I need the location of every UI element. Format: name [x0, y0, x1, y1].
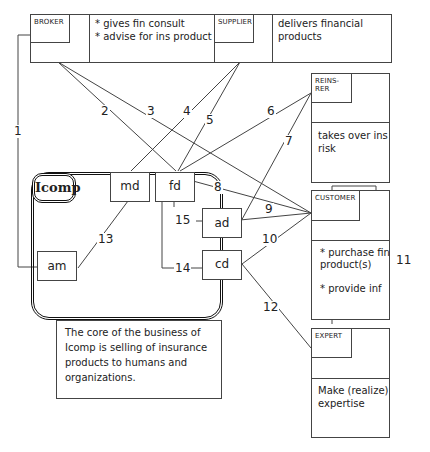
connection-label-2: 2	[100, 105, 110, 118]
unit-md[interactable]: md	[110, 172, 150, 202]
supplier-tag: SUPPLIER	[214, 14, 254, 43]
connection-label-12: 12	[262, 301, 279, 314]
connection-label-11: 11	[395, 254, 412, 267]
reinsurer-description: takes over ins risk	[318, 129, 388, 155]
organization-title: Icomp	[32, 173, 76, 203]
connection-label-4: 4	[182, 105, 192, 118]
connection-label-10: 10	[261, 233, 278, 246]
broker-description: * gives fin consult * advise for ins pro…	[95, 17, 212, 43]
connection-label-1: 1	[13, 125, 23, 138]
customer-description: * purchase fin product(s) * provide inf	[320, 247, 390, 295]
connection-label-6: 6	[266, 105, 276, 118]
connection-label-15: 15	[174, 214, 191, 227]
connection-label-7: 7	[284, 135, 294, 148]
supplier-divider	[272, 14, 273, 63]
reinsurer-tag: REINS-RER	[311, 73, 352, 103]
unit-fd[interactable]: fd	[155, 172, 195, 202]
expert-divider	[311, 378, 390, 379]
reinsurer-divider	[311, 122, 390, 123]
broker-tag: BROKER	[30, 14, 70, 43]
connection-label-5: 5	[205, 114, 215, 127]
unit-ad[interactable]: ad	[202, 208, 242, 238]
connection-label-8: 8	[213, 181, 223, 194]
expert-description: Make (realize) expertise	[318, 384, 388, 410]
customer-divider	[311, 240, 390, 241]
supplier-description: delivers financial products	[278, 17, 363, 43]
connection-label-9: 9	[264, 203, 274, 216]
connection-label-3: 3	[146, 105, 156, 118]
connection-label-14: 14	[174, 262, 191, 275]
connection-2	[58, 62, 176, 171]
connection-label-13: 13	[97, 233, 114, 246]
unit-cd[interactable]: cd	[202, 250, 242, 280]
unit-am[interactable]: am	[37, 251, 77, 281]
customer-tag: CUSTOMER	[311, 190, 360, 221]
expert-tag: EXPERT	[311, 328, 352, 358]
business-note: The core of the business of Icomp is sel…	[56, 320, 222, 399]
connection-9	[240, 213, 311, 220]
broker-divider	[89, 14, 90, 63]
